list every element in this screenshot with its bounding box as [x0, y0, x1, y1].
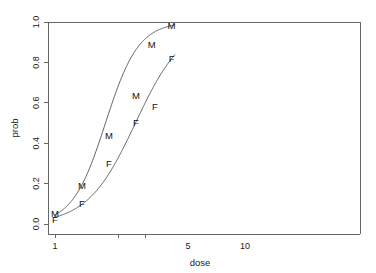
plot-background: [0, 0, 376, 273]
y-tick-label-5: 1.0: [31, 16, 41, 29]
y-tick-label-2: 0.4: [31, 137, 41, 150]
x-tick-label-5: 5: [185, 241, 190, 251]
point-label-female-2: F: [106, 158, 112, 169]
point-label-male-5: M: [168, 20, 176, 31]
y-tick-label-1: 0.2: [31, 177, 41, 190]
x-tick-label-1: 1: [52, 241, 57, 251]
point-label-female-0: F: [52, 214, 58, 225]
x-axis-title: dose: [190, 257, 211, 268]
point-label-female-5: F: [169, 53, 175, 64]
y-tick-label-3: 0.6: [31, 97, 41, 110]
point-label-male-2: M: [105, 130, 113, 141]
y-tick-label-0: 0.0: [31, 218, 41, 231]
point-label-male-4: M: [148, 39, 156, 50]
dose-response-plot: 0.0 0.2 0.4 0.6 0.8 1.0 1 5 10 dose prob…: [0, 0, 376, 273]
x-tick-label-10: 10: [240, 241, 250, 251]
point-label-female-3: F: [133, 117, 139, 128]
point-label-male-1: M: [78, 180, 86, 191]
y-axis-title: prob: [9, 118, 20, 137]
point-label-male-3: M: [132, 90, 140, 101]
point-label-female-4: F: [152, 101, 158, 112]
point-label-female-1: F: [79, 198, 85, 209]
y-tick-label-4: 0.8: [31, 56, 41, 69]
chart-figure: 0.0 0.2 0.4 0.6 0.8 1.0 1 5 10 dose prob…: [0, 0, 376, 273]
